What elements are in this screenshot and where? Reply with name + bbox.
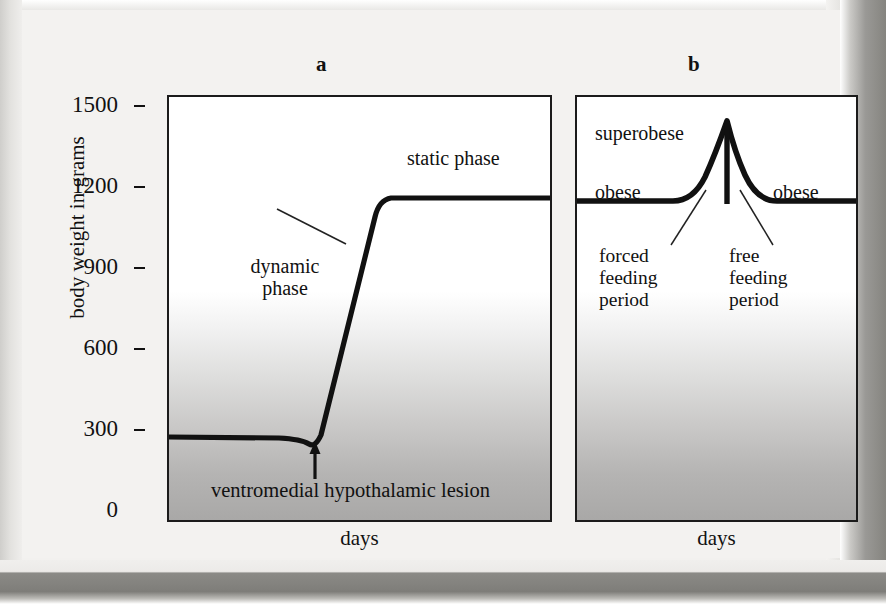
annotation-forced-line1: forced	[599, 245, 691, 267]
panel-a-weight-curve	[169, 198, 550, 445]
y-tick-label-600: 600	[32, 335, 118, 361]
plot-panel-a: static phase dynamic phase ventromedial …	[167, 95, 552, 522]
bevel-left-edge	[0, 0, 22, 604]
figure-canvas: a b body weight in grams 1500 1200 900 6…	[22, 10, 840, 558]
annotation-free-feeding-period: free feeding period	[729, 245, 815, 310]
y-tick-mark-600	[134, 348, 145, 350]
bevel-top-edge	[0, 0, 886, 10]
annotation-free-line3: period	[729, 289, 815, 311]
y-tick-mark-1200	[134, 186, 145, 188]
x-axis-label-b: days	[575, 526, 858, 551]
bevel-bottom-edge	[0, 560, 886, 604]
annotation-free-line1: free	[729, 245, 815, 267]
annotation-superobese: superobese	[595, 122, 684, 144]
dynamic-phase-leader-line	[277, 209, 346, 244]
annotation-static-phase: static phase	[407, 147, 500, 169]
annotation-dynamic-phase-line2: phase	[231, 277, 339, 299]
annotation-forced-line2: feeding	[599, 267, 691, 289]
annotation-lesion-label: ventromedial hypothalamic lesion	[211, 479, 490, 502]
y-tick-mark-300	[134, 429, 145, 431]
y-tick-mark-1500	[134, 105, 145, 107]
plot-panel-b: superobese obese obese forced feeding pe…	[575, 95, 858, 522]
annotation-obese-right: obese	[773, 181, 819, 203]
annotation-forced-feeding-period: forced feeding period	[599, 245, 691, 310]
annotation-free-line2: feeding	[729, 267, 815, 289]
y-tick-label-300: 300	[32, 416, 118, 442]
annotation-obese-left: obese	[595, 181, 641, 203]
figure-plate: a b body weight in grams 1500 1200 900 6…	[0, 0, 886, 604]
y-tick-label-1500: 1500	[32, 92, 118, 118]
x-axis-label-a: days	[167, 526, 552, 551]
y-tick-label-900: 900	[32, 254, 118, 280]
panel-caption-b: b	[688, 52, 700, 77]
y-tick-mark-900	[134, 267, 145, 269]
panel-caption-a: a	[316, 52, 327, 77]
y-tick-label-0: 0	[32, 497, 118, 523]
annotation-dynamic-phase: dynamic phase	[231, 255, 339, 300]
y-tick-label-1200: 1200	[32, 173, 118, 199]
annotation-dynamic-phase-line1: dynamic	[231, 255, 339, 277]
annotation-forced-line3: period	[599, 289, 691, 311]
